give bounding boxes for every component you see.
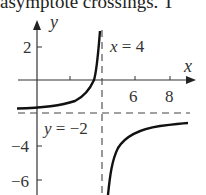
horizontal-asymptote-label: y = −2 <box>42 119 88 138</box>
x-axis-arrow-icon <box>186 76 196 84</box>
y-tick-label-2: 2 <box>23 38 32 57</box>
x-tick-label-6: 6 <box>129 87 138 106</box>
y-ticks <box>37 47 42 180</box>
curve-right-branch <box>108 123 188 195</box>
y-tick-label-minus-6: −6 <box>11 172 29 191</box>
y-axis-label: y <box>48 12 58 32</box>
x-axis-label: x <box>183 56 192 76</box>
y-axis-arrow-icon <box>33 20 41 30</box>
vertical-asymptote-label: x = 4 <box>109 37 145 56</box>
y-tick-label-minus-4: −4 <box>11 137 30 156</box>
chart: y x x = 4 y = −2 6 8 2 −4 −6 <box>0 0 206 195</box>
x-tick-label-8: 8 <box>165 87 174 106</box>
